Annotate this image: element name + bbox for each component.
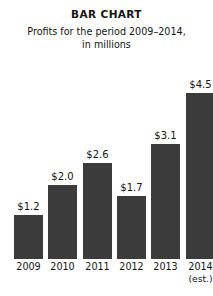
bar-group: $3.1: [151, 78, 180, 259]
bar-group: $2.6: [83, 78, 112, 259]
bar-group: $2.0: [48, 78, 77, 259]
bar: [48, 185, 77, 259]
x-axis-tick-label: 2009: [14, 261, 43, 273]
bar: [83, 163, 112, 259]
chart-subtitle-line-2: in millions: [82, 39, 131, 50]
bar: [117, 196, 146, 259]
x-axis-labels: 200920102011201220132014(est.): [14, 261, 199, 296]
bar: [14, 215, 43, 259]
bar-value-label: $2.0: [42, 171, 83, 183]
x-axis-tick-label: 2010: [48, 261, 77, 273]
bar-group: $4.5: [186, 78, 213, 259]
x-axis-tick: 2009: [14, 261, 43, 273]
x-axis-tick-label: 2014: [186, 261, 213, 273]
x-axis-tick-label: 2011: [83, 261, 112, 273]
x-axis-tick: 2012: [117, 261, 146, 273]
plot-area: $1.2$2.0$2.6$1.7$3.1$4.5: [14, 78, 199, 259]
bar-chart-figure: BAR CHART Profits for the period 2009–20…: [0, 8, 213, 296]
bar: [151, 144, 180, 259]
x-axis-tick-note: (est.): [186, 273, 213, 285]
x-axis-tick-label: 2013: [151, 261, 180, 273]
bar-value-label: $1.2: [8, 201, 49, 213]
bar-value-label: $2.6: [77, 149, 118, 161]
bar-value-label: $4.5: [180, 79, 213, 91]
x-axis-tick: 2014(est.): [186, 261, 213, 285]
x-axis-tick: 2011: [83, 261, 112, 273]
x-axis-tick-label: 2012: [117, 261, 146, 273]
chart-subtitle: Profits for the period 2009–2014, in mil…: [6, 26, 207, 51]
bar: [186, 93, 213, 259]
chart-subtitle-line-1: Profits for the period 2009–2014,: [27, 26, 185, 37]
chart-title: BAR CHART: [0, 8, 213, 21]
bar-group: $1.2: [14, 78, 43, 259]
x-axis-tick: 2013: [151, 261, 180, 273]
x-axis-tick: 2010: [48, 261, 77, 273]
bar-group: $1.7: [117, 78, 146, 259]
bar-value-label: $1.7: [111, 182, 152, 194]
bar-value-label: $3.1: [145, 130, 186, 142]
